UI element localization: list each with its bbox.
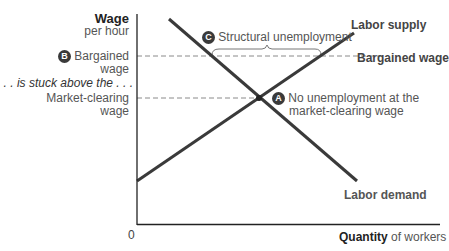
origin-label: 0 <box>128 228 135 242</box>
labor-demand-label: Labor demand <box>344 188 427 202</box>
x-axis-title: Quantity of workers <box>339 230 446 244</box>
no-unemployment-annotation: A No unemployment at the market-clearing… <box>272 92 419 118</box>
stuck-above-note: . . . is stuck above the . . . <box>0 77 133 90</box>
marker-a-icon: A <box>272 92 285 105</box>
structural-unemployment-label: C Structural unemployment <box>202 30 352 44</box>
structural-unemployment-brace <box>212 45 321 55</box>
marker-b-icon: B <box>58 50 71 63</box>
bargained-wage-right-label: Bargained wage <box>357 51 449 65</box>
bargained-wage-left-label: B Bargained wage <box>58 50 129 76</box>
y-axis-title: Wage per hour <box>84 12 129 38</box>
market-clearing-left-label: Market-clearing wage <box>46 92 129 118</box>
equilibrium-point <box>256 95 262 101</box>
labor-supply-label: Labor supply <box>351 18 426 32</box>
marker-c-icon: C <box>202 31 215 44</box>
